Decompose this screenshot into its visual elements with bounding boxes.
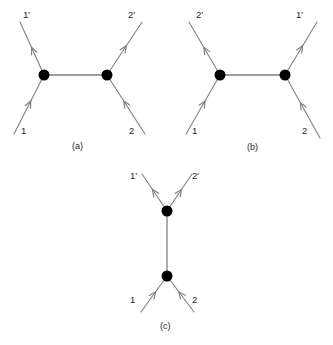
panel-caption-a: (a) bbox=[72, 142, 83, 151]
leg-line-c-leg-2-prime bbox=[167, 174, 192, 211]
leg-label-a-leg-1-prime: 1' bbox=[23, 10, 30, 20]
arrowhead-b-leg-1-prime bbox=[297, 46, 303, 53]
arrowhead-a-leg-2-prime bbox=[120, 46, 126, 53]
panel-caption-c: (c) bbox=[160, 322, 171, 331]
vertex-b-left-vertex bbox=[215, 70, 226, 81]
arrowhead-a-leg-2 bbox=[124, 101, 130, 108]
leg-label-a-leg-2: 2 bbox=[129, 126, 134, 136]
leg-line-c-leg-2 bbox=[167, 276, 194, 312]
leg-line-a-leg-2-prime bbox=[107, 22, 142, 75]
leg-label-b-leg-1: 1 bbox=[192, 126, 197, 136]
leg-line-b-leg-1-prime bbox=[285, 22, 317, 75]
feynman-diagram-figure: 1'2'12(a)2'1'12(b)1'2'12(c) bbox=[0, 0, 333, 345]
leg-label-a-leg-2-prime: 2' bbox=[128, 10, 135, 20]
leg-line-a-leg-2 bbox=[107, 75, 145, 134]
diagram-content bbox=[14, 22, 320, 312]
leg-label-c-leg-2: 2 bbox=[192, 295, 197, 305]
panel-caption-b: (b) bbox=[247, 143, 258, 152]
vertex-a-left-vertex bbox=[39, 70, 50, 81]
leg-line-c-leg-1-prime bbox=[142, 174, 167, 211]
leg-line-c-leg-1 bbox=[141, 276, 167, 312]
leg-label-b-leg-2: 2 bbox=[302, 126, 307, 136]
vertex-b-right-vertex bbox=[280, 70, 291, 81]
leg-label-a-leg-1: 1 bbox=[21, 126, 26, 136]
leg-label-b-leg-1-prime: 1' bbox=[296, 10, 303, 20]
vertex-a-right-vertex bbox=[102, 70, 113, 81]
leg-label-c-leg-1: 1 bbox=[130, 295, 135, 305]
leg-label-c-leg-1-prime: 1' bbox=[130, 171, 137, 181]
leg-label-c-leg-2-prime: 2' bbox=[192, 171, 199, 181]
vertex-c-bottom-vertex bbox=[162, 271, 173, 282]
leg-label-b-leg-2-prime: 2' bbox=[196, 10, 203, 20]
leg-line-a-leg-1 bbox=[14, 75, 44, 134]
vertex-c-top-vertex bbox=[162, 206, 173, 217]
diagram-canvas bbox=[0, 0, 333, 345]
